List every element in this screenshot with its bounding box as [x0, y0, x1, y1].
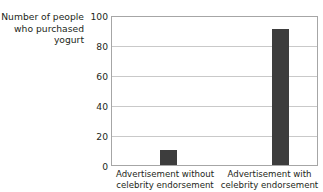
clipped-title-text: [0, 0, 323, 3]
bar-advertisement-with-celebrity-endorsement: [272, 29, 289, 165]
x-tick-label-advertisement-with: Advertisement with celebrity endorsement: [216, 169, 323, 190]
y-axis-title-line-2: who purchased: [0, 23, 84, 35]
y-axis-title: Number of people who purchased yogurt: [0, 11, 84, 46]
x-tick-label-1-line-2: celebrity endorsement: [216, 180, 323, 191]
x-tick-label-0-line-1: Advertisement without: [104, 169, 226, 180]
y-tick-label-60: 60: [82, 72, 108, 81]
bar-chart-figure: Number of people who purchased yogurt 10…: [0, 0, 323, 192]
x-tick-label-0-line-2: celebrity endorsement: [104, 180, 226, 191]
y-tick-label-20: 20: [82, 132, 108, 141]
bar-advertisement-without-celebrity-endorsement: [160, 150, 177, 165]
y-axis-title-line-3: yogurt: [0, 34, 84, 46]
plot-area: [111, 16, 318, 166]
y-axis-title-line-1: Number of people: [0, 11, 84, 23]
x-tick-label-advertisement-without: Advertisement without celebrity endorsem…: [104, 169, 226, 190]
x-tick-label-1-line-1: Advertisement with: [216, 169, 323, 180]
y-tick-label-40: 40: [82, 102, 108, 111]
y-tick-label-100: 100: [82, 12, 108, 21]
y-tick-label-80: 80: [82, 42, 108, 51]
